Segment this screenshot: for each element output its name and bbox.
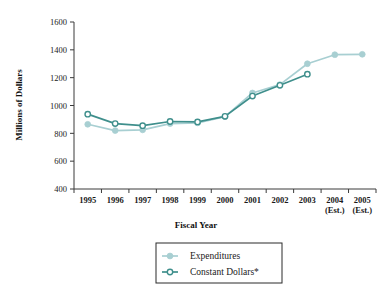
y-tick-label: 1600: [50, 17, 67, 27]
data-point: [195, 119, 200, 124]
x-tick-sublabel: (Est.): [352, 205, 372, 215]
data-point: [85, 121, 91, 127]
y-tick-label: 1200: [50, 73, 67, 83]
data-point: [250, 93, 255, 98]
legend-label: Expenditures: [190, 251, 240, 261]
y-tick-label: 1000: [50, 101, 67, 111]
data-point: [332, 52, 338, 58]
data-point: [305, 71, 310, 76]
x-tick-label: 2001: [244, 195, 261, 205]
x-tick-label: 1998: [162, 195, 179, 205]
y-tick-label: 400: [54, 184, 67, 194]
x-tick-label: 1996: [107, 195, 124, 205]
legend-swatch-marker: [167, 253, 173, 259]
y-tick-label: 800: [54, 129, 67, 139]
x-tick-label: 1995: [79, 195, 96, 205]
legend-label: Constant Dollars*: [190, 267, 259, 277]
y-tick-label: 1400: [50, 45, 67, 55]
x-tick-label: 2005: [354, 195, 371, 205]
chart-figure: Millions of Dollars 40060080010001200140…: [0, 0, 384, 293]
data-point: [85, 111, 90, 116]
y-axis-title: Millions of Dollars: [14, 69, 24, 141]
data-point: [277, 83, 282, 88]
data-point: [112, 121, 117, 126]
x-tick-label: 2003: [299, 195, 316, 205]
data-point: [222, 114, 227, 119]
x-tick-label: 2002: [271, 195, 288, 205]
x-tick-label: 1997: [134, 195, 152, 205]
data-point: [359, 51, 365, 57]
y-tick-label: 600: [54, 156, 67, 166]
x-tick-label: 2004: [326, 195, 344, 205]
x-tick-label: 1999: [189, 195, 206, 205]
x-axis-title: Fiscal Year: [175, 220, 217, 230]
line-chart: Millions of Dollars 40060080010001200140…: [0, 0, 384, 293]
chart-legend: ExpendituresConstant Dollars*: [156, 243, 282, 283]
x-tick-sublabel: (Est.): [325, 205, 345, 215]
data-point: [167, 119, 172, 124]
data-point: [112, 128, 118, 134]
legend-swatch-marker: [167, 269, 172, 274]
x-tick-label: 2000: [217, 195, 234, 205]
data-point: [140, 123, 145, 128]
data-point: [304, 61, 310, 67]
